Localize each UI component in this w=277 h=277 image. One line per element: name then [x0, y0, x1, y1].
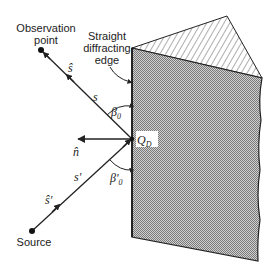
s-hat-arrow [68, 76, 74, 82]
source-label: Source [17, 236, 52, 248]
edge-label-pointer [110, 67, 130, 82]
diffracted-ray-arrowhead [45, 54, 50, 59]
s-hat-prime-arrow [52, 206, 58, 212]
observation-point-label-2: point [34, 34, 58, 46]
s-label: s [93, 90, 98, 104]
edge-label-2: diffracting [83, 42, 131, 54]
edge-label-1: Straight [88, 30, 126, 42]
observation-point-dot [38, 47, 44, 53]
beta0-prime-arc [110, 160, 132, 170]
observation-point-label-1: Observation [16, 22, 75, 34]
diffraction-diagram: Observation point Straight diffracting e… [0, 0, 277, 277]
incident-ray [32, 139, 132, 231]
s-prime-label: s′ [74, 170, 82, 184]
incident-ray-arrowhead [123, 141, 129, 147]
s-hat-label: ŝ [68, 61, 73, 75]
diffracting-plate [132, 48, 262, 261]
beta0-prime-label: β′0 [109, 171, 123, 187]
source-dot [29, 228, 35, 234]
diffraction-point-qd [130, 137, 134, 141]
n-hat-label: n̂ [73, 145, 79, 159]
edge-label-3: edge [95, 54, 119, 66]
s-hat-prime-label: ŝ′ [45, 193, 53, 207]
